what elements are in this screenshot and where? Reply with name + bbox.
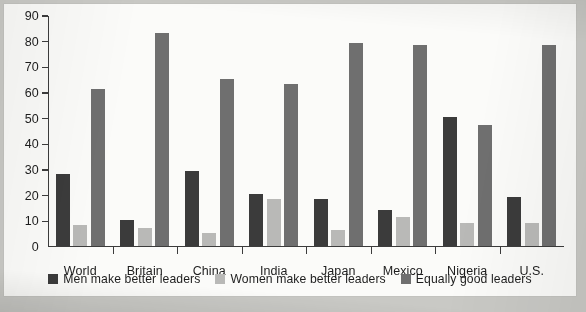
bar [349,43,363,246]
bar-group [314,15,363,246]
y-axis-tick [42,92,48,93]
bar-group [249,15,298,246]
y-axis-tick-label: 20 [25,188,39,202]
bar [284,84,298,246]
y-axis-tick-label: 0 [32,240,39,254]
bar [443,117,457,245]
chart-card: 0102030405060708090 WorldBritainChinaInd… [4,4,576,296]
bar [478,125,492,246]
legend-swatch-icon [401,274,411,284]
bar [155,33,169,246]
y-axis-tick-label: 60 [25,86,39,100]
x-axis-tick [500,247,501,254]
scanned-page: 0102030405060708090 WorldBritainChinaInd… [0,0,586,312]
legend-swatch-icon [48,274,58,284]
bar [249,194,263,245]
y-axis-tick [42,169,48,170]
y-axis-tick [42,195,48,196]
y-axis-line [48,16,49,247]
y-axis-tick [42,41,48,42]
y-axis-tick [42,67,48,68]
legend-label: Equally good leaders [416,272,532,286]
x-axis-tick [306,247,307,254]
x-axis-tick [371,247,372,254]
bar [120,220,134,246]
bar [185,171,199,245]
bar [220,79,234,246]
bar [314,199,328,245]
bar-group [185,15,234,246]
y-axis-tick [42,118,48,119]
y-axis-tick-label: 50 [25,111,39,125]
y-axis-tick-label: 40 [25,137,39,151]
bar [202,233,216,246]
x-axis-tick [242,247,243,254]
bar [138,228,152,246]
plot-area: 0102030405060708090 WorldBritainChinaInd… [48,16,564,247]
chart-legend: Men make better leadersWomen make better… [4,272,576,286]
y-axis-tick [42,15,48,16]
y-axis-tick-label: 90 [25,9,39,23]
bar [56,174,70,246]
x-axis-tick [435,247,436,254]
legend-item[interactable]: Men make better leaders [48,272,200,286]
y-axis-tick [42,221,48,222]
y-axis-tick-label: 10 [25,214,39,228]
bar [73,225,87,246]
y-axis-tick-label: 80 [25,34,39,48]
x-axis-tick [177,247,178,254]
bar [413,45,427,245]
legend-label: Men make better leaders [63,272,200,286]
bar [378,210,392,246]
legend-item[interactable]: Women make better leaders [215,272,385,286]
legend-swatch-icon [215,274,225,284]
y-axis-tick-label: 70 [25,60,39,74]
bar-group [56,15,105,246]
legend-label: Women make better leaders [230,272,385,286]
bar-group [507,15,556,246]
bar-group [120,15,169,246]
bar [542,45,556,245]
bar [267,199,281,245]
bar [525,223,539,246]
legend-item[interactable]: Equally good leaders [401,272,532,286]
bar-group [378,15,427,246]
bar [507,197,521,246]
bar [396,217,410,245]
bar-group [443,15,492,246]
bar [331,230,345,245]
bar [91,89,105,246]
y-axis-tick-label: 30 [25,163,39,177]
x-axis-tick [113,247,114,254]
bar [460,223,474,246]
y-axis-tick [42,144,48,145]
